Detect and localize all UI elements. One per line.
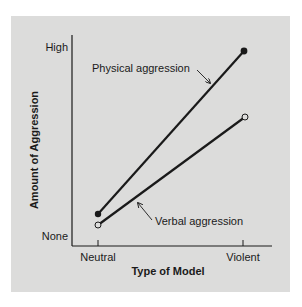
series-label-physical: Physical aggression <box>92 62 190 74</box>
point-physical-violent <box>241 48 248 55</box>
y-tick-none: None <box>42 230 68 242</box>
point-physical-neutral <box>95 211 101 217</box>
x-tick-label-neutral: Neutral <box>80 251 115 263</box>
pointer-arrow-verbal <box>138 203 152 220</box>
y-tick-high: High <box>45 41 68 53</box>
y-axis-title: Amount of Aggression <box>28 91 40 209</box>
x-axis-title: Type of Model <box>131 265 204 277</box>
series-label-verbal: Verbal aggression <box>155 215 243 227</box>
pointer-arrow-physical <box>197 70 210 83</box>
point-verbal-neutral <box>95 222 101 228</box>
point-verbal-violent <box>242 114 248 120</box>
x-tick-label-violent: Violent <box>226 251 259 263</box>
line-chart: High None Neutral Violent Amount of Aggr… <box>0 0 302 307</box>
